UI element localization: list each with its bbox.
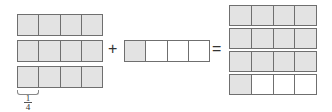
quarter-label: 1 4 bbox=[22, 94, 34, 111]
fraction-bar bbox=[17, 40, 103, 62]
fraction-bar bbox=[17, 14, 103, 36]
shaded-cell bbox=[61, 15, 82, 35]
shaded-cell bbox=[274, 6, 296, 25]
fraction-bar bbox=[229, 74, 317, 95]
shaded-cell bbox=[230, 75, 252, 94]
shaded-cell bbox=[39, 41, 60, 61]
shaded-cell bbox=[61, 41, 82, 61]
shaded-cell bbox=[295, 6, 316, 25]
empty-cell bbox=[189, 41, 209, 61]
shaded-cell bbox=[39, 15, 60, 35]
fraction-bar bbox=[17, 66, 103, 88]
shaded-cell bbox=[230, 6, 252, 25]
shaded-cell bbox=[252, 52, 274, 71]
empty-cell bbox=[274, 75, 296, 94]
shaded-cell bbox=[18, 67, 39, 87]
shaded-cell bbox=[230, 52, 252, 71]
shaded-cell bbox=[230, 29, 252, 48]
shaded-cell bbox=[82, 67, 102, 87]
empty-cell bbox=[168, 41, 189, 61]
shaded-cell bbox=[18, 15, 39, 35]
shaded-cell bbox=[61, 67, 82, 87]
empty-cell bbox=[146, 41, 167, 61]
shaded-cell bbox=[252, 6, 274, 25]
fraction-bar bbox=[229, 51, 317, 72]
shaded-cell bbox=[82, 41, 102, 61]
equals-sign: = bbox=[212, 41, 221, 57]
shaded-cell bbox=[125, 41, 146, 61]
fraction-bar bbox=[229, 5, 317, 26]
shaded-cell bbox=[295, 29, 316, 48]
fraction-bar bbox=[229, 28, 317, 49]
shaded-cell bbox=[39, 67, 60, 87]
fraction-numerator: 1 bbox=[22, 94, 34, 102]
shaded-cell bbox=[274, 29, 296, 48]
empty-cell bbox=[252, 75, 274, 94]
fraction-bar bbox=[124, 40, 210, 62]
fraction-denominator: 4 bbox=[22, 103, 34, 111]
shaded-cell bbox=[82, 15, 102, 35]
shaded-cell bbox=[295, 52, 316, 71]
shaded-cell bbox=[274, 52, 296, 71]
shaded-cell bbox=[252, 29, 274, 48]
empty-cell bbox=[295, 75, 316, 94]
plus-sign: + bbox=[108, 41, 117, 57]
shaded-cell bbox=[18, 41, 39, 61]
